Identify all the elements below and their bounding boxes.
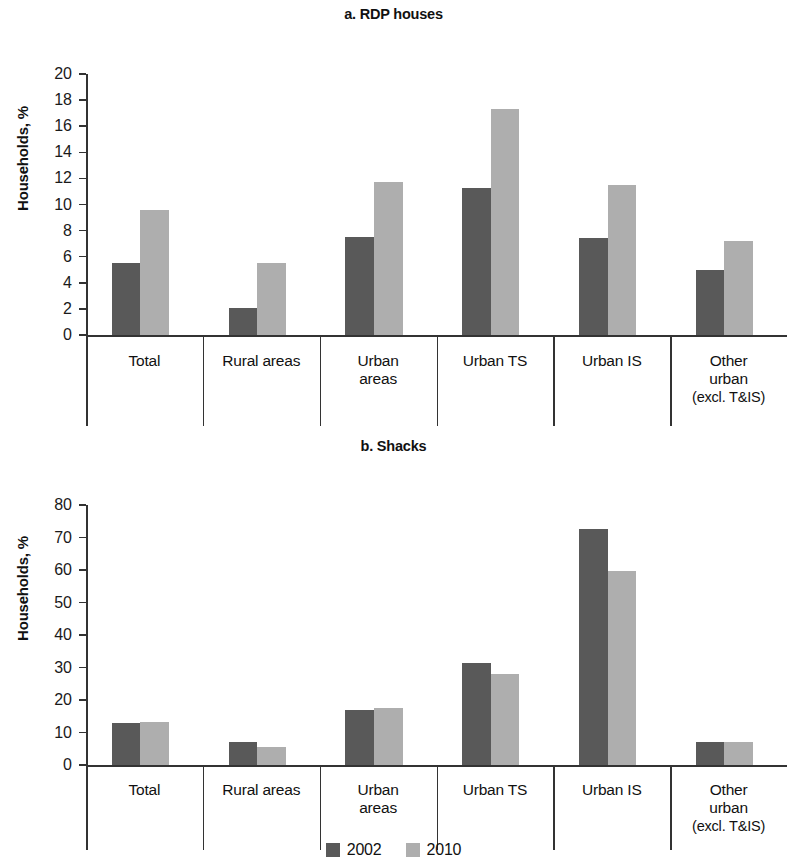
category-separator bbox=[203, 767, 205, 850]
y-axis-tick-mark bbox=[79, 569, 86, 571]
panel-rdp-houses: a. RDP houses Households, % 024681012141… bbox=[0, 0, 787, 430]
category-label-line: areas bbox=[320, 370, 437, 388]
bar-2002 bbox=[579, 529, 608, 765]
y-axis-tick-mark bbox=[79, 99, 86, 101]
panel-a-title: a. RDP houses bbox=[0, 0, 787, 22]
y-axis-tick-mark bbox=[79, 699, 86, 701]
legend-label-2010: 2010 bbox=[427, 841, 462, 859]
bar-2002 bbox=[229, 742, 258, 765]
y-axis-tick-mark bbox=[79, 537, 86, 539]
category-separator bbox=[553, 767, 555, 850]
bar-2010 bbox=[140, 210, 169, 335]
category-label-line: Rural areas bbox=[203, 781, 320, 799]
category-label-line: Urban TS bbox=[437, 352, 554, 370]
bar-2010 bbox=[140, 722, 169, 765]
category-label-line: areas bbox=[320, 799, 437, 817]
y-axis-title: Households, % bbox=[14, 99, 31, 219]
x-axis-category-label: Rural areas bbox=[203, 352, 320, 370]
category-separator bbox=[86, 767, 88, 850]
bar-2002 bbox=[696, 742, 725, 765]
bar-2010 bbox=[724, 241, 753, 335]
category-label-line: Urban bbox=[320, 781, 437, 799]
bar-2002 bbox=[462, 188, 491, 335]
y-axis-tick-label: 10 bbox=[30, 197, 72, 213]
bar-2002 bbox=[696, 270, 725, 335]
y-axis-tick-label: 20 bbox=[30, 66, 72, 82]
category-label-line: Total bbox=[86, 352, 203, 370]
legend-swatch-2010-icon bbox=[406, 843, 420, 857]
bar-2002 bbox=[345, 710, 374, 765]
y-axis-tick-label: 12 bbox=[30, 170, 72, 186]
category-label-line: Rural areas bbox=[203, 352, 320, 370]
y-axis-tick-label: 14 bbox=[30, 144, 72, 160]
category-separator bbox=[553, 337, 555, 426]
y-axis-tick-mark bbox=[79, 504, 86, 506]
category-label-line: (excl. T&IS) bbox=[670, 818, 787, 835]
bar-2002 bbox=[112, 723, 141, 765]
category-separator bbox=[437, 337, 439, 426]
y-axis-tick-label: 40 bbox=[30, 627, 72, 643]
y-axis-tick-label: 4 bbox=[30, 275, 72, 291]
category-label-line: Urban IS bbox=[553, 781, 670, 799]
y-axis-tick-label: 60 bbox=[30, 562, 72, 578]
y-axis-tick-mark bbox=[79, 256, 86, 258]
bar-2002 bbox=[462, 663, 491, 765]
y-axis-tick-mark bbox=[79, 308, 86, 310]
bar-2010 bbox=[257, 263, 286, 335]
x-axis-category-label: Urbanareas bbox=[320, 781, 437, 818]
category-label-line: Urban IS bbox=[553, 352, 670, 370]
y-axis-line bbox=[86, 505, 88, 766]
bar-2002 bbox=[229, 308, 258, 335]
category-label-line: (excl. T&IS) bbox=[670, 389, 787, 406]
bar-2002 bbox=[579, 238, 608, 335]
y-axis-tick-label: 80 bbox=[30, 497, 72, 513]
y-axis-tick-mark bbox=[79, 732, 86, 734]
panel-shacks: b. Shacks Households, % 0102030405060708… bbox=[0, 430, 787, 861]
y-axis-tick-mark bbox=[79, 178, 86, 180]
y-axis-tick-label: 0 bbox=[30, 327, 72, 343]
category-label-line: Other bbox=[670, 352, 787, 370]
y-axis-tick-mark bbox=[79, 282, 86, 284]
y-axis-tick-label: 2 bbox=[30, 301, 72, 317]
y-axis-tick-mark bbox=[79, 634, 86, 636]
bar-2010 bbox=[724, 742, 753, 765]
y-axis-tick-mark bbox=[79, 230, 86, 232]
y-axis-tick-mark bbox=[79, 667, 86, 669]
category-label-line: Urban bbox=[320, 352, 437, 370]
y-axis-tick-label: 18 bbox=[30, 92, 72, 108]
x-axis-category-label: Urban TS bbox=[437, 781, 554, 799]
x-axis-category-label: Urbanareas bbox=[320, 352, 437, 389]
legend-swatch-2002-icon bbox=[326, 843, 340, 857]
bar-2010 bbox=[374, 708, 403, 765]
category-separator bbox=[437, 767, 439, 850]
x-axis-category-label: Urban TS bbox=[437, 352, 554, 370]
category-label-line: urban bbox=[670, 370, 787, 388]
bar-2010 bbox=[608, 571, 637, 765]
bar-2010 bbox=[374, 182, 403, 335]
y-axis-tick-label: 6 bbox=[30, 249, 72, 265]
category-separator bbox=[203, 337, 205, 426]
y-axis-tick-mark bbox=[79, 152, 86, 154]
x-axis-category-label: Otherurban(excl. T&IS) bbox=[670, 781, 787, 835]
category-separator bbox=[86, 337, 88, 426]
y-axis-tick-label: 30 bbox=[30, 660, 72, 676]
y-axis-tick-label: 20 bbox=[30, 692, 72, 708]
panel-b-title: b. Shacks bbox=[0, 430, 787, 454]
bar-2010 bbox=[491, 674, 520, 765]
y-axis-tick-mark bbox=[79, 334, 86, 336]
y-axis-tick-label: 0 bbox=[30, 757, 72, 773]
bar-2010 bbox=[491, 109, 520, 335]
y-axis-tick-label: 8 bbox=[30, 223, 72, 239]
bar-2010 bbox=[608, 185, 637, 335]
category-label-line: Total bbox=[86, 781, 203, 799]
y-axis-tick-label: 16 bbox=[30, 118, 72, 134]
bar-2002 bbox=[345, 237, 374, 335]
legend-item-2010: 2010 bbox=[406, 841, 462, 859]
category-label-line: Urban TS bbox=[437, 781, 554, 799]
y-axis-tick-mark bbox=[79, 602, 86, 604]
x-axis-category-label: Urban IS bbox=[553, 352, 670, 370]
legend-item-2002: 2002 bbox=[326, 841, 382, 859]
y-axis-tick-mark bbox=[79, 204, 86, 206]
x-axis-category-label: Rural areas bbox=[203, 781, 320, 799]
y-axis-title: Households, % bbox=[14, 529, 31, 649]
